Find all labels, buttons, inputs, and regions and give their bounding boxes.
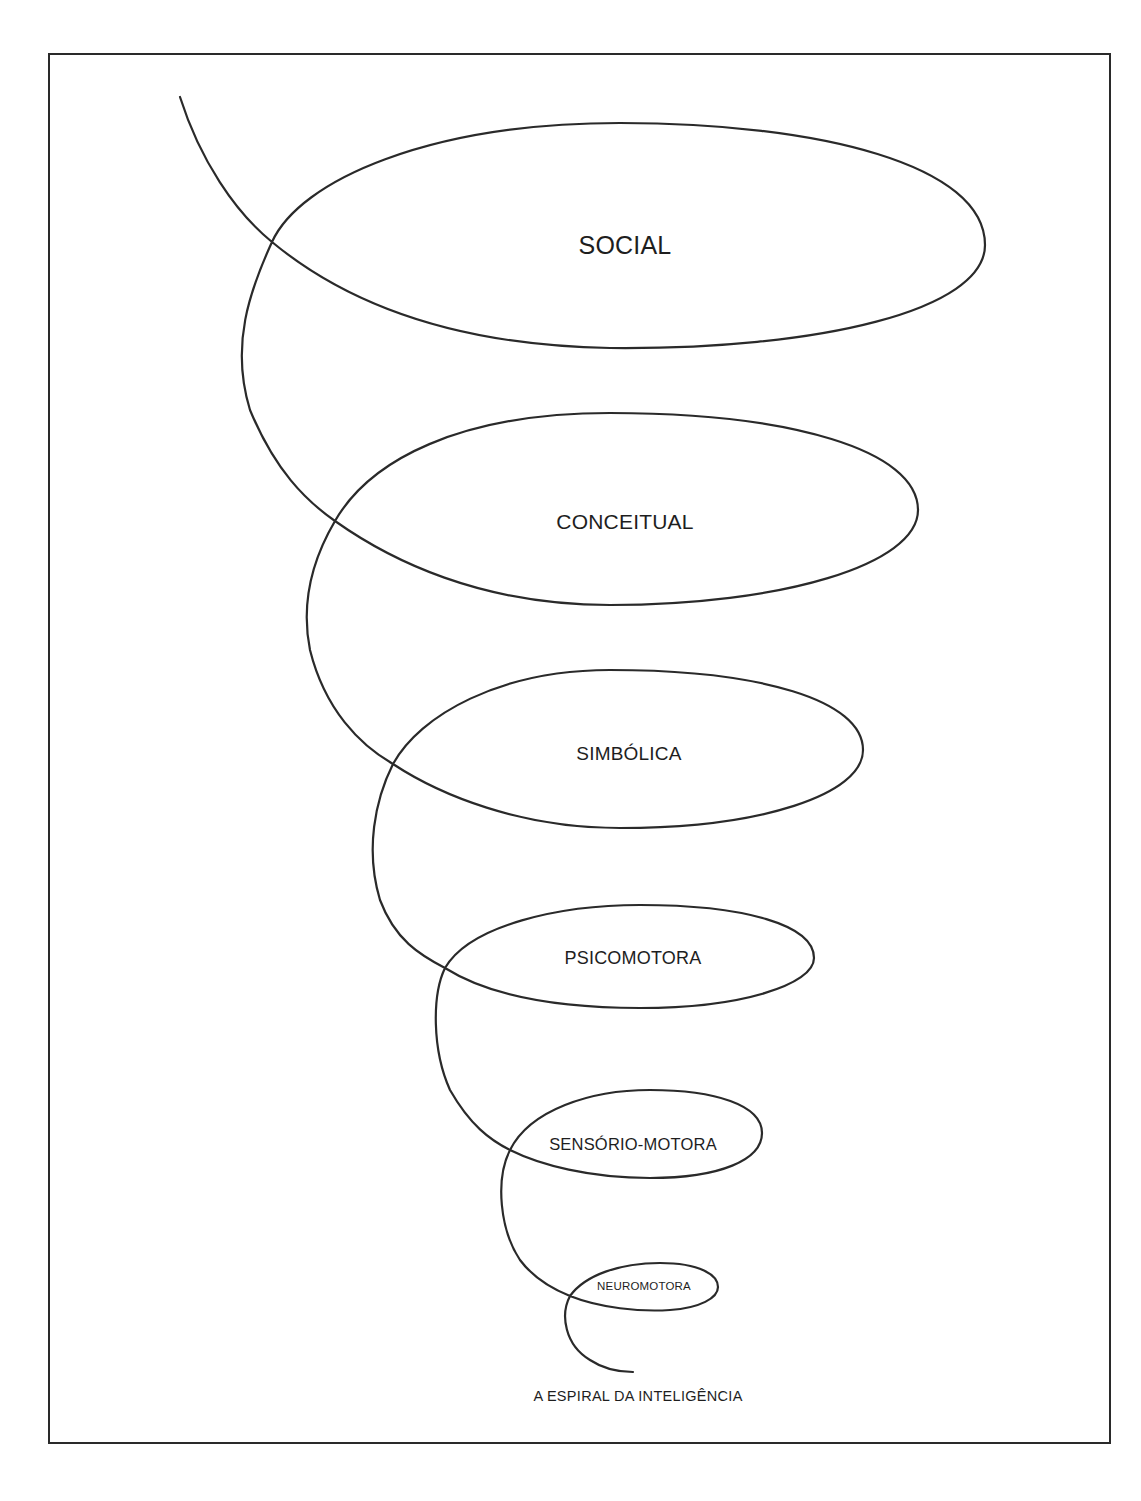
level-label-neuromotora: NEUROMOTORA xyxy=(597,1280,691,1292)
figure-caption: A ESPIRAL DA INTELIGÊNCIA xyxy=(533,1388,742,1404)
level-label-sensorio-motora: SENSÓRIO-MOTORA xyxy=(549,1135,717,1154)
level-label-simbolica: SIMBÓLICA xyxy=(576,743,681,765)
level-label-social: SOCIAL xyxy=(579,231,672,260)
intelligence-spiral xyxy=(0,0,1141,1501)
spiral-path xyxy=(180,97,985,1372)
level-label-psicomotora: PSICOMOTORA xyxy=(565,948,702,969)
level-label-conceitual: CONCEITUAL xyxy=(556,510,693,534)
